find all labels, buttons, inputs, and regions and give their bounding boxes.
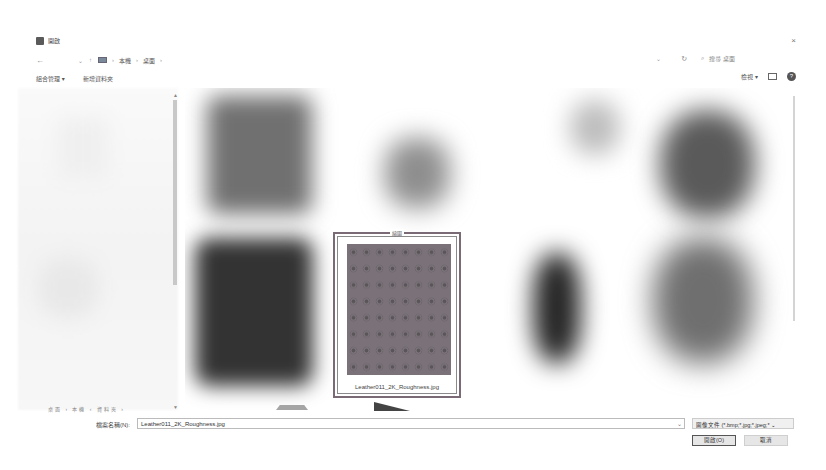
- cancel-button[interactable]: 取消: [744, 435, 788, 446]
- chevron-right-icon[interactable]: ›: [136, 57, 138, 63]
- navbar-right: ⌄ ↻ ⌕ 搜尋 桌面: [656, 54, 796, 63]
- blurred-nav-item: [58, 118, 108, 178]
- organize-button[interactable]: 組合管理 ▾: [36, 74, 65, 83]
- filename-label: 檔案名稱(N):: [96, 420, 130, 429]
- file-list-scrollbar[interactable]: [793, 96, 795, 321]
- desktop-folder-icon: [98, 57, 107, 63]
- recent-locations-icon[interactable]: ⌄: [78, 57, 83, 64]
- view-options-button[interactable]: 檢視 ▾: [741, 72, 758, 81]
- search-icon: ⌕: [701, 55, 704, 62]
- sidebar-scrollbar[interactable]: ▲ ▼: [173, 92, 178, 410]
- title-bar: 開啟: [36, 36, 60, 45]
- command-toolbar: 組合管理 ▾ 新增資料夾 檢視 ▾ ?: [36, 72, 796, 84]
- back-arrow-icon[interactable]: ←: [36, 56, 44, 65]
- navigation-pane[interactable]: [18, 88, 178, 410]
- navigation-bar: ← ⌄ ↑ › 本機 › 桌面 › ⌄ ↻ ⌕ 搜尋 桌面: [36, 54, 796, 66]
- filename-input[interactable]: [137, 418, 685, 429]
- scroll-down-icon[interactable]: ▼: [173, 404, 178, 410]
- chevron-right-icon[interactable]: ›: [112, 57, 114, 63]
- drag-hint-shape: [276, 405, 308, 410]
- address-dropdown-icon[interactable]: ⌄: [656, 55, 661, 62]
- thumbnail-caption: 縮圖: [390, 229, 404, 236]
- file-thumbnail[interactable]: [653, 238, 753, 363]
- filename-row: 檔案名稱(N): ⌄ 圖像文件 (*.bmp;*.jpg;*.jpeg;* ⌄: [0, 418, 826, 432]
- toolbar-right: 檢視 ▾ ?: [741, 72, 796, 81]
- file-thumbnail[interactable]: [385, 138, 450, 208]
- scrollbar-thumb[interactable]: [173, 100, 177, 285]
- file-thumbnail[interactable]: [195, 238, 313, 386]
- new-folder-button[interactable]: 新增資料夾: [83, 74, 113, 83]
- chevron-right-icon[interactable]: ›: [160, 57, 162, 63]
- file-thumbnail[interactable]: [570, 100, 620, 155]
- open-button[interactable]: 開啟(O): [692, 435, 736, 446]
- file-thumbnail[interactable]: [533, 253, 581, 363]
- blurred-nav-item: [38, 258, 98, 318]
- file-list-view[interactable]: [185, 88, 793, 410]
- leather-texture-thumbnail: [347, 244, 451, 375]
- up-arrow-icon[interactable]: ↑: [89, 57, 92, 63]
- cursor-arrow-icon: [374, 402, 410, 411]
- search-input[interactable]: ⌕ 搜尋 桌面: [701, 54, 796, 63]
- file-type-select[interactable]: 圖像文件 (*.bmp;*.jpg;*.jpeg;* ⌄: [692, 418, 794, 429]
- sidebar-bottom-text: 桌面 › 本機 ‹ 資料夾 ›: [48, 405, 125, 412]
- scroll-up-icon[interactable]: ▲: [173, 92, 178, 98]
- breadcrumb-desktop[interactable]: 桌面: [143, 56, 155, 65]
- search-placeholder: 搜尋 桌面: [709, 54, 735, 63]
- close-button[interactable]: ×: [791, 36, 796, 45]
- chevron-down-icon[interactable]: ⌄: [677, 420, 682, 427]
- selected-file-item[interactable]: 縮圖 Leather011_2K_Roughness.jpg: [333, 232, 461, 398]
- refresh-icon[interactable]: ↻: [681, 55, 687, 63]
- breadcrumb: › 本機 › 桌面 ›: [98, 56, 162, 65]
- selected-file-name: Leather011_2K_Roughness.jpg: [335, 384, 459, 390]
- preview-pane-icon[interactable]: [768, 73, 777, 80]
- help-icon[interactable]: ?: [787, 72, 796, 81]
- breadcrumb-this-pc[interactable]: 本機: [119, 56, 131, 65]
- file-thumbnail[interactable]: [660, 110, 755, 218]
- window-title: 開啟: [48, 36, 60, 45]
- app-icon: [36, 37, 44, 45]
- file-thumbnail[interactable]: [207, 96, 312, 214]
